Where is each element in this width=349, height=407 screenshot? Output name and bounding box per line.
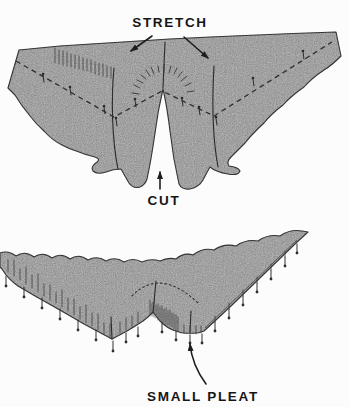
sewing-diagram: STRETCH CUT SMALL PLEAT bbox=[0, 0, 349, 407]
small-pleat-label: SMALL PLEAT bbox=[147, 389, 259, 404]
cut-label: CUT bbox=[148, 193, 181, 208]
diagram-canvas: STRETCH CUT SMALL PLEAT bbox=[0, 0, 349, 407]
stretch-label: STRETCH bbox=[132, 15, 208, 30]
